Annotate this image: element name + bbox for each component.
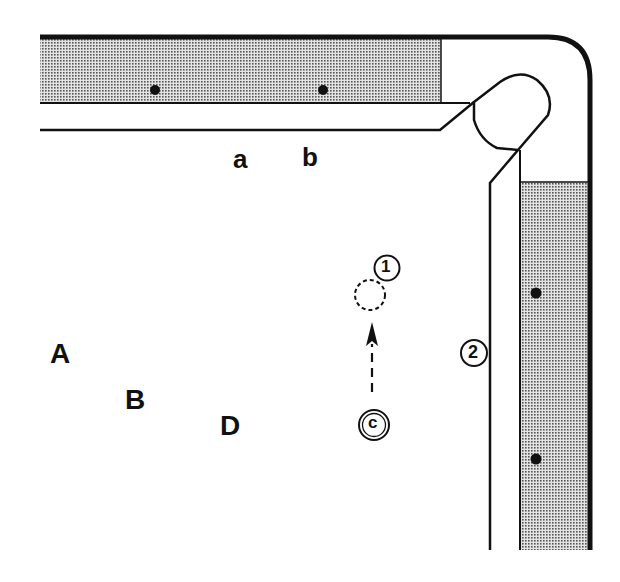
aim-arrow bbox=[366, 322, 378, 392]
corner-pocket bbox=[474, 74, 550, 150]
billiard-diagram: 1 2 c a b A B D bbox=[0, 0, 620, 582]
ball-2-label: 2 bbox=[468, 343, 478, 361]
diamond-marker bbox=[531, 454, 542, 465]
right-rail bbox=[520, 182, 588, 550]
table-drawing bbox=[0, 0, 620, 582]
top-rail bbox=[40, 39, 441, 103]
diamond-marker bbox=[150, 85, 160, 95]
cue-ball-label: c bbox=[368, 414, 377, 431]
ball-1-label: 1 bbox=[381, 258, 390, 275]
rail-label-a: a bbox=[233, 146, 247, 172]
rail-label-b: b bbox=[302, 144, 318, 170]
position-label-d: D bbox=[220, 412, 240, 440]
diamond-marker bbox=[318, 85, 328, 95]
right-cushion bbox=[490, 150, 518, 550]
diamond-marker bbox=[531, 288, 542, 299]
position-label-b: B bbox=[125, 386, 145, 414]
position-label-a: A bbox=[50, 340, 70, 368]
ghost-ball bbox=[355, 280, 385, 310]
top-cushion bbox=[40, 102, 474, 130]
